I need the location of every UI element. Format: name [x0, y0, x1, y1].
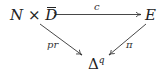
label-pi: π [126, 40, 133, 50]
symbol-d-bar: D [45, 8, 57, 23]
node-delta-q: Δq [88, 56, 105, 72]
symbol-n: N [10, 6, 23, 24]
node-n-times-d-bar: N × D [10, 8, 57, 23]
arrow-c [54, 12, 141, 17]
times-symbol: × [28, 6, 41, 24]
label-c: c [94, 2, 100, 12]
label-pr: pr [47, 40, 58, 50]
symbol-delta: Δ [88, 55, 99, 73]
superscript-q: q [99, 55, 105, 65]
symbol-e: E [145, 6, 156, 24]
node-e: E [145, 8, 156, 23]
